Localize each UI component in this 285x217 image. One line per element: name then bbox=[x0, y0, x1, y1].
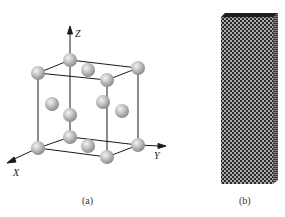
fcc-unit-cell-diagram: Z X Y bbox=[0, 0, 190, 217]
y-axis-label: Y bbox=[154, 150, 161, 161]
caption-b: (b) bbox=[239, 195, 251, 206]
atom-front-face-center bbox=[96, 95, 110, 109]
atom-corner-top-back-right bbox=[131, 61, 145, 75]
atoms bbox=[31, 53, 145, 164]
atom-corner-bottom-front-right bbox=[100, 150, 114, 164]
atom-corner-top-back-left bbox=[63, 53, 77, 67]
atom-bottom-face-center bbox=[81, 139, 95, 153]
atom-corner-top-front-left bbox=[31, 66, 45, 80]
atom-corner-bottom-back-left bbox=[63, 130, 77, 144]
atom-corner-bottom-front-left bbox=[31, 141, 45, 155]
y-axis-arrow-icon bbox=[158, 144, 166, 149]
atom-right-face-center bbox=[115, 104, 129, 118]
pillar-top-face bbox=[221, 13, 278, 17]
atom-top-face-center bbox=[81, 63, 95, 77]
z-axis-arrow-icon bbox=[68, 26, 73, 34]
panel-b-nanowire: (b) bbox=[190, 0, 285, 217]
x-axis-arrow-icon bbox=[7, 157, 16, 163]
x-axis-label: X bbox=[12, 167, 20, 178]
atom-left-face-center bbox=[45, 97, 59, 111]
z-axis-label: Z bbox=[75, 28, 81, 39]
panel-a-fcc-unit-cell: Z X Y bbox=[0, 0, 190, 217]
atom-corner-bottom-back-right bbox=[131, 138, 145, 152]
pillar-front-face bbox=[221, 17, 273, 184]
caption-a: (a) bbox=[82, 195, 93, 206]
atom-corner-top-front-right bbox=[100, 73, 114, 87]
pillar-side-face bbox=[273, 13, 278, 184]
atom-back-face-center bbox=[63, 108, 77, 122]
nanowire-diagram bbox=[190, 0, 285, 217]
